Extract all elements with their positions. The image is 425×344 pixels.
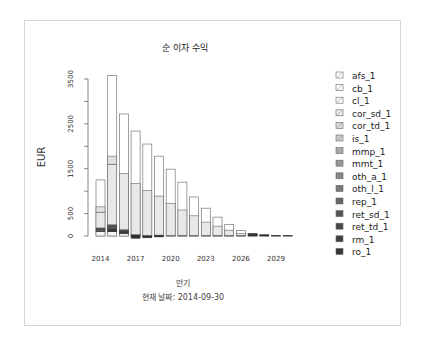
legend-swatch-icon bbox=[336, 248, 343, 254]
legend-item-ret_td_1: ret_td_1 bbox=[336, 222, 389, 232]
x-tick-label: 2029 bbox=[267, 255, 285, 263]
bar-2021 bbox=[178, 182, 187, 236]
legend-label: rep_1 bbox=[352, 197, 377, 207]
x-tick-label: 2017 bbox=[127, 255, 145, 263]
legend-item-cl_1: cl_1 bbox=[336, 96, 370, 106]
bar-2019 bbox=[155, 156, 164, 237]
x-tick-label: 2014 bbox=[92, 255, 110, 263]
y-tick-label: 500 bbox=[67, 207, 75, 220]
legend-label: ro_1 bbox=[352, 247, 371, 257]
x-axis-ticks: 201420172020202320262029 bbox=[92, 255, 285, 263]
legend-item-mmt_1: mmt_1 bbox=[336, 159, 383, 169]
bar-2014 bbox=[96, 180, 105, 236]
legend-item-rm_1: rm_1 bbox=[336, 235, 375, 245]
y-tick-label: 2500 bbox=[67, 115, 75, 133]
legend-item-mmp_1: mmp_1 bbox=[336, 147, 385, 157]
legend: afs_1cb_1cl_1cor_sd_1cor_td_1is_1mmp_1mm… bbox=[336, 71, 391, 257]
legend-item-cor_sd_1: cor_sd_1 bbox=[336, 109, 391, 119]
legend-item-afs_1: afs_1 bbox=[336, 71, 376, 81]
legend-swatch-icon bbox=[336, 148, 343, 154]
legend-label: mmt_1 bbox=[352, 159, 383, 169]
bars bbox=[96, 75, 292, 238]
bar-2024 bbox=[213, 217, 222, 236]
bar-2016 bbox=[119, 114, 128, 236]
bar-2022 bbox=[190, 197, 199, 236]
y-tick-label: 1500 bbox=[67, 160, 75, 178]
legend-label: rm_1 bbox=[352, 235, 375, 245]
legend-swatch-icon bbox=[336, 160, 343, 166]
legend-label: mmp_1 bbox=[352, 147, 385, 157]
legend-item-cb_1: cb_1 bbox=[336, 84, 373, 94]
legend-item-is_1: is_1 bbox=[336, 134, 369, 144]
legend-label: oth_l_1 bbox=[352, 184, 384, 194]
legend-label: ret_sd_1 bbox=[352, 210, 390, 220]
legend-item-rep_1: rep_1 bbox=[336, 197, 377, 207]
stacked-bar-chart: 순 이자 수익 EUR 0500150025003500 20142017202… bbox=[0, 0, 425, 344]
current-date-caption: 현재 날짜: 2014-09-30 bbox=[142, 292, 224, 302]
legend-item-ro_1: ro_1 bbox=[336, 247, 371, 257]
legend-item-ret_sd_1: ret_sd_1 bbox=[336, 210, 390, 220]
legend-label: cb_1 bbox=[352, 84, 373, 94]
legend-swatch-icon bbox=[336, 211, 343, 217]
legend-item-oth_l_1: oth_l_1 bbox=[336, 184, 384, 194]
legend-label: ret_td_1 bbox=[352, 222, 389, 232]
legend-swatch-icon bbox=[336, 223, 343, 229]
bar-2023 bbox=[201, 208, 210, 236]
legend-item-cor_td_1: cor_td_1 bbox=[336, 121, 390, 131]
bar-2028 bbox=[260, 235, 269, 236]
legend-label: is_1 bbox=[352, 134, 369, 144]
legend-swatch-icon bbox=[336, 198, 343, 204]
bar-2020 bbox=[166, 169, 175, 236]
bar-2018 bbox=[143, 144, 152, 238]
legend-swatch-icon bbox=[336, 236, 343, 242]
y-axis-label: EUR bbox=[36, 147, 47, 168]
x-axis-label: 만기 bbox=[176, 279, 190, 288]
legend-label: cl_1 bbox=[352, 96, 370, 106]
legend-swatch-icon bbox=[336, 173, 343, 179]
legend-label: afs_1 bbox=[352, 71, 376, 81]
legend-item-oth_a_1: oth_a_1 bbox=[336, 172, 387, 182]
legend-label: oth_a_1 bbox=[352, 172, 387, 182]
bar-2026 bbox=[236, 231, 245, 236]
x-tick-label: 2023 bbox=[197, 255, 215, 263]
bar-2017 bbox=[131, 131, 140, 238]
x-tick-label: 2026 bbox=[232, 255, 250, 263]
chart-title: 순 이자 수익 bbox=[162, 42, 208, 53]
bar-2025 bbox=[225, 224, 234, 236]
legend-label: cor_sd_1 bbox=[352, 109, 391, 119]
legend-swatch-icon bbox=[336, 185, 343, 191]
bar-2015 bbox=[108, 75, 117, 236]
y-tick-label: 0 bbox=[67, 234, 75, 238]
bar-2027 bbox=[248, 234, 257, 236]
x-tick-label: 2020 bbox=[162, 255, 180, 263]
y-axis: 0500150025003500 bbox=[67, 70, 88, 238]
y-tick-label: 3500 bbox=[67, 70, 75, 88]
legend-label: cor_td_1 bbox=[352, 121, 390, 131]
